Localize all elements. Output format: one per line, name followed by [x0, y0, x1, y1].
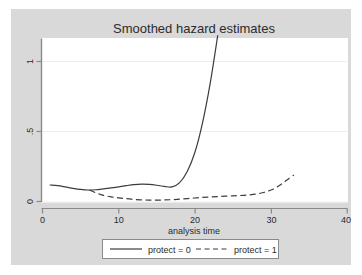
y-tick-label-0: 0 — [25, 199, 35, 204]
x-tick-label-10: 10 — [114, 215, 124, 225]
x-tick-label-40: 40 — [341, 215, 351, 225]
y-axis-ticks — [37, 62, 42, 202]
x-tick-label-0: 0 — [40, 215, 45, 225]
x-tick-label-30: 30 — [266, 215, 276, 225]
x-axis-title: analysis time — [168, 226, 220, 236]
smoothed-hazard-chart: 1 .5 0 0 10 20 30 40 analysis time Smoot… — [0, 0, 362, 275]
y-tick-label-1: 1 — [25, 59, 35, 64]
plot-area — [42, 39, 348, 203]
y-tick-label-0p5: .5 — [25, 128, 35, 136]
legend: protect = 0 protect = 1 — [103, 240, 279, 259]
legend-label-protect-1: protect = 1 — [234, 245, 277, 255]
legend-label-protect-0: protect = 0 — [148, 245, 191, 255]
x-axis-ticks — [43, 209, 348, 214]
x-tick-label-20: 20 — [190, 215, 200, 225]
chart-title: Smoothed hazard estimates — [113, 21, 275, 36]
chart-figure: 1 .5 0 0 10 20 30 40 analysis time Smoot… — [0, 0, 362, 275]
